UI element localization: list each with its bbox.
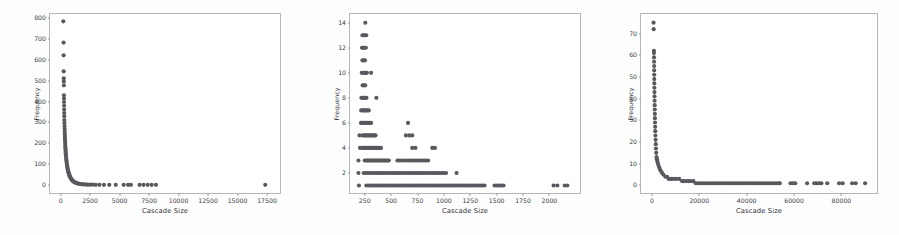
x-tick-label: 10000 xyxy=(169,198,189,204)
x-tick-label: 1500 xyxy=(489,198,505,204)
y-tick-label: 4 xyxy=(342,145,346,151)
data-point xyxy=(62,69,66,73)
y-tick-label: 100 xyxy=(34,161,46,167)
data-point xyxy=(263,183,267,187)
scatter-points-1 xyxy=(50,14,280,193)
data-point xyxy=(364,33,368,37)
data-point xyxy=(374,96,378,100)
y-tick-mark xyxy=(348,97,351,98)
x-tick-label: 2000 xyxy=(542,198,558,204)
plot-area-2: Frequency Cascade Size 24681012142505007… xyxy=(349,13,581,194)
data-point xyxy=(819,181,823,185)
y-tick-mark xyxy=(348,22,351,23)
y-tick-label: 30 xyxy=(629,117,637,123)
data-point xyxy=(62,53,66,57)
data-point xyxy=(653,138,657,142)
y-tick-mark xyxy=(48,185,51,186)
data-point xyxy=(653,133,657,137)
data-point xyxy=(652,60,656,64)
y-tick-label: 50 xyxy=(629,74,637,80)
x-tick-label: 1000 xyxy=(436,198,452,204)
data-point xyxy=(146,183,150,187)
data-point xyxy=(653,99,657,103)
scatter-plot-figure: Frequency Cascade Size 01002003004005006… xyxy=(0,0,899,235)
y-tick-label: 10 xyxy=(629,161,637,167)
data-point xyxy=(410,133,414,137)
y-tick-mark xyxy=(48,80,51,81)
x-tick-mark xyxy=(364,193,365,196)
x-tick-label: 40000 xyxy=(737,198,757,204)
x-tick-label: 15000 xyxy=(228,198,248,204)
y-tick-mark xyxy=(639,185,642,186)
y-tick-mark xyxy=(48,122,51,123)
data-point xyxy=(793,181,797,185)
y-tick-label: 14 xyxy=(338,20,346,26)
data-point xyxy=(379,146,383,150)
y-tick-mark xyxy=(639,76,642,77)
plot-area-3: Frequency Cascade Size 01020304050607002… xyxy=(640,13,878,194)
y-tick-label: 20 xyxy=(629,139,637,145)
data-point xyxy=(426,158,430,162)
data-point xyxy=(138,183,142,187)
data-point xyxy=(363,83,367,87)
data-point xyxy=(565,183,569,187)
x-axis-label-3: Cascade Size xyxy=(736,207,782,215)
data-point xyxy=(652,64,656,68)
data-point xyxy=(356,158,360,162)
y-tick-label: 60 xyxy=(629,52,637,58)
y-tick-mark xyxy=(348,122,351,123)
data-point xyxy=(654,151,658,155)
x-tick-label: 250 xyxy=(359,198,371,204)
data-point xyxy=(94,183,98,187)
data-point xyxy=(501,183,505,187)
data-point xyxy=(652,68,656,72)
x-tick-label: 0 xyxy=(650,198,654,204)
x-tick-mark xyxy=(417,193,418,196)
y-tick-label: 0 xyxy=(42,182,46,188)
scatter-panel-1: Frequency Cascade Size 01002003004005006… xyxy=(0,0,300,235)
y-tick-mark xyxy=(348,147,351,148)
data-point xyxy=(653,112,657,116)
x-tick-mark xyxy=(60,193,61,196)
scatter-points-3 xyxy=(641,14,877,193)
y-tick-mark xyxy=(348,172,351,173)
y-tick-mark xyxy=(48,164,51,165)
y-tick-label: 2 xyxy=(342,170,346,176)
plot-area-1: Frequency Cascade Size 01002003004005006… xyxy=(49,13,281,194)
data-point xyxy=(387,158,391,162)
data-point xyxy=(454,171,458,175)
data-point xyxy=(413,146,417,150)
x-tick-mark xyxy=(699,193,700,196)
data-point xyxy=(652,90,656,94)
y-tick-label: 700 xyxy=(34,36,46,42)
x-tick-label: 750 xyxy=(412,198,424,204)
data-point xyxy=(107,183,111,187)
data-point xyxy=(150,183,154,187)
data-point xyxy=(154,183,158,187)
y-tick-label: 70 xyxy=(629,30,637,36)
data-point xyxy=(652,27,656,31)
data-point xyxy=(653,125,657,129)
x-tick-mark xyxy=(119,193,120,196)
y-tick-mark xyxy=(48,39,51,40)
y-tick-mark xyxy=(639,55,642,56)
data-point xyxy=(837,181,841,185)
data-point xyxy=(61,19,65,23)
x-tick-label: 5000 xyxy=(112,198,128,204)
data-point xyxy=(365,71,369,75)
x-tick-mark xyxy=(443,193,444,196)
y-tick-label: 200 xyxy=(34,140,46,146)
data-point xyxy=(97,183,101,187)
y-tick-mark xyxy=(639,98,642,99)
data-point xyxy=(102,183,106,187)
scatter-points-2 xyxy=(350,14,580,193)
y-tick-label: 6 xyxy=(342,120,346,126)
data-point xyxy=(373,133,377,137)
data-point xyxy=(62,107,66,111)
data-point xyxy=(652,51,656,55)
y-tick-label: 400 xyxy=(34,99,46,105)
x-tick-label: 80000 xyxy=(832,198,852,204)
data-point xyxy=(652,73,656,77)
y-tick-mark xyxy=(348,72,351,73)
data-point xyxy=(805,181,809,185)
